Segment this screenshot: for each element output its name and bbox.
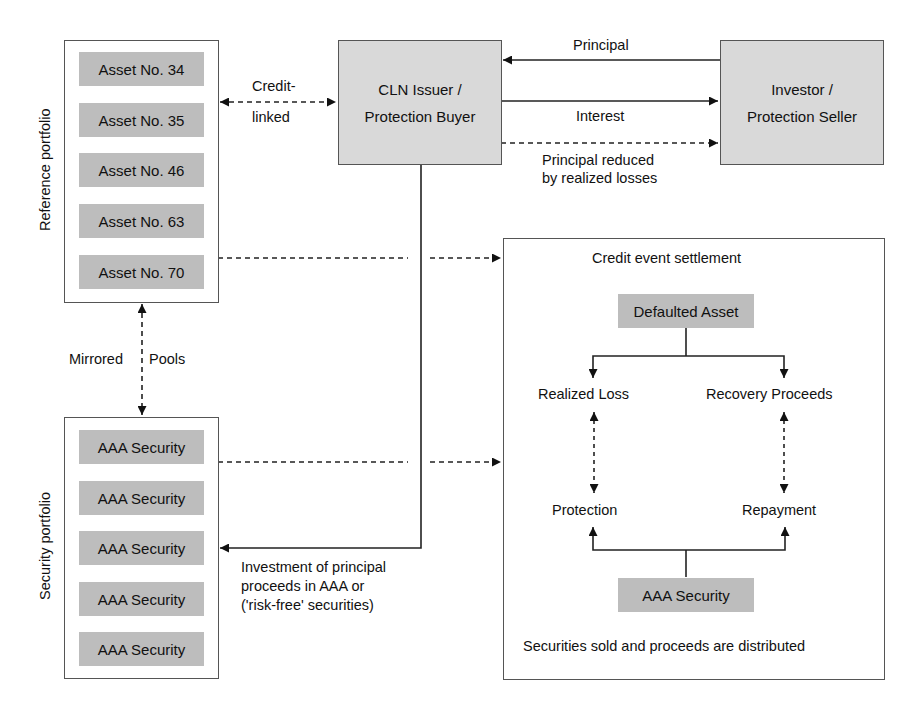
principal-reduced-label-2: by realized losses (542, 170, 657, 187)
investment-label-1: Investment of principal (241, 559, 386, 576)
cln-issuer-line1: CLN Issuer / (378, 76, 461, 103)
pools-label: Pools (149, 351, 185, 368)
principal-reduced-label-1: Principal reduced (542, 152, 654, 169)
settlement-footer: Securities sold and proceeds are distrib… (523, 638, 805, 655)
settlement-title: Credit event settlement (592, 250, 741, 267)
reference-portfolio-label: Reference portfolio (37, 111, 53, 231)
repayment-label: Repayment (742, 502, 816, 519)
asset-item: Asset No. 46 (79, 153, 204, 187)
security-item: AAA Security (79, 481, 204, 515)
asset-item: Asset No. 34 (79, 52, 204, 86)
protection-label: Protection (552, 502, 617, 519)
investment-label-2: proceeds in AAA or (241, 578, 364, 595)
realized-loss-label: Realized Loss (538, 386, 629, 403)
security-portfolio-label: Security portfolio (37, 486, 53, 606)
security-item: AAA Security (79, 632, 204, 666)
credit-linked-label-1: Credit- (252, 78, 296, 95)
mirrored-label: Mirrored (69, 351, 123, 368)
cln-issuer-box: CLN Issuer / Protection Buyer (338, 40, 502, 165)
asset-item: Asset No. 35 (79, 103, 204, 137)
asset-item: Asset No. 70 (79, 255, 204, 289)
security-item: AAA Security (79, 531, 204, 565)
asset-item: Asset No. 63 (79, 204, 204, 238)
investor-line2: Protection Seller (747, 103, 857, 130)
investment-flow-line (220, 164, 421, 548)
investment-label-3: ('risk-free' securities) (241, 597, 374, 614)
principal-label: Principal (573, 37, 629, 54)
investor-box: Investor / Protection Seller (720, 40, 884, 165)
security-item: AAA Security (79, 430, 204, 464)
defaulted-asset-box: Defaulted Asset (618, 294, 754, 328)
settlement-aaa-security-box: AAA Security (618, 578, 754, 612)
cln-issuer-line2: Protection Buyer (365, 103, 476, 130)
credit-linked-label-2: linked (252, 109, 290, 126)
security-item: AAA Security (79, 582, 204, 616)
investor-line1: Investor / (771, 76, 833, 103)
interest-label: Interest (576, 108, 624, 125)
recovery-proceeds-label: Recovery Proceeds (706, 386, 833, 403)
